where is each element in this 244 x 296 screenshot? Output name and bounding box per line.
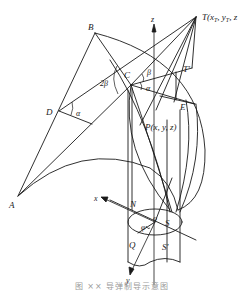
label-S: S: [165, 218, 170, 228]
angle-beta-arc: [142, 74, 144, 82]
label-o: o: [153, 214, 157, 223]
z-axis-arrow: [152, 24, 156, 32]
label-C: C: [124, 70, 131, 80]
line-A-B: [18, 33, 95, 196]
label-Sprime: S': [162, 242, 170, 252]
angle-2beta-arc: [114, 66, 118, 94]
label-Q: Q: [129, 240, 136, 250]
label-alpha-D: α: [76, 109, 81, 118]
figure-caption: 图 ×× 导弹制导示意图: [0, 280, 244, 291]
label-Tprime: T': [183, 64, 191, 74]
label-2beta: 2β: [100, 79, 108, 88]
label-z-axis: z: [150, 15, 155, 24]
label-x-axis: x: [93, 194, 98, 203]
line-A-C: [18, 85, 131, 196]
label-E: E: [179, 102, 186, 112]
angle-alpha-D-arc: [71, 102, 73, 115]
curve-C-inner: [129, 85, 170, 210]
x-axis-arrow: [101, 197, 108, 202]
label-beta-C: β: [146, 68, 151, 77]
label-T: T(xT, yT, z: [202, 12, 238, 23]
label-A: A: [8, 200, 15, 210]
label-P: P(x, y, z): [144, 122, 177, 132]
label-B: B: [88, 22, 94, 32]
guidance-geometry-diagram: B C D A T' E P(x, y, z) N Q S S' o φ α 2…: [0, 0, 244, 296]
label-D: D: [45, 107, 53, 117]
label-phi: φ: [141, 223, 146, 232]
label-N: N: [129, 199, 137, 209]
angle-alpha-C-arc: [140, 82, 142, 90]
label-alpha-C: α: [146, 84, 151, 93]
line-C-T: [131, 17, 196, 85]
line-E-base: [160, 96, 195, 104]
